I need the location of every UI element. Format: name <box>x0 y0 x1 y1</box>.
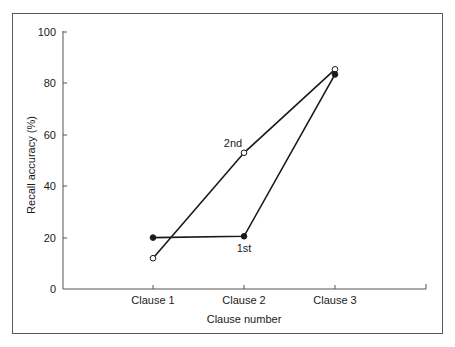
data-point-1st-3 <box>332 72 338 78</box>
data-point-2nd-1 <box>150 255 156 261</box>
y-tick-20: 20 <box>44 232 56 244</box>
x-tick-clause-2: Clause 2 <box>222 294 265 306</box>
series-2nd <box>150 67 338 262</box>
y-axis: 0 20 40 60 80 100 Recall accuracy (%) <box>25 26 67 295</box>
x-axis-title: Clause number <box>207 313 282 325</box>
data-point-1st-1 <box>150 235 156 241</box>
y-axis-title: Recall accuracy (%) <box>25 116 37 214</box>
series-layer <box>150 67 338 262</box>
series-label-1st: 1st <box>237 242 252 254</box>
y-tick-100: 100 <box>38 26 56 38</box>
y-tick-0: 0 <box>50 283 56 295</box>
data-point-2nd-2 <box>241 150 247 156</box>
y-tick-60: 60 <box>44 129 56 141</box>
y-tick-40: 40 <box>44 180 56 192</box>
data-point-1st-2 <box>241 234 247 240</box>
x-tick-clause-1: Clause 1 <box>131 294 174 306</box>
x-tick-clause-3: Clause 3 <box>313 294 356 306</box>
y-tick-80: 80 <box>44 77 56 89</box>
series-line-2nd <box>153 69 335 258</box>
chart: 0 20 40 60 80 100 Recall accuracy (%) Cl… <box>0 0 455 347</box>
series-label-2nd: 2nd <box>224 137 242 149</box>
x-axis: Clause 1 Clause 2 Clause 3 Clause number <box>63 284 426 325</box>
chart-frame <box>13 14 443 334</box>
